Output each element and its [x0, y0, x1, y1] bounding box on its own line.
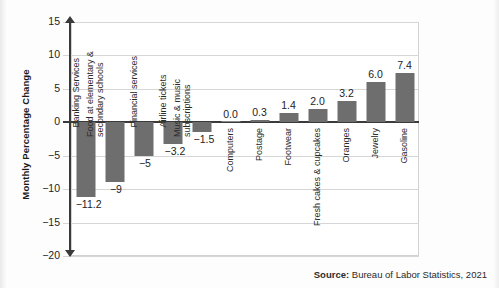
- bar-value-label: −5: [139, 157, 151, 169]
- bar-group[interactable]: 1.4Footwear: [274, 22, 303, 256]
- bar[interactable]: [221, 121, 240, 122]
- category-label-line: Gasoline: [400, 128, 410, 164]
- bar[interactable]: [279, 113, 298, 122]
- bar-value-label: 1.4: [281, 99, 296, 111]
- bar-value-label: −11.2: [76, 198, 102, 210]
- bar-group[interactable]: −1.5Music & musicsubscriptions: [187, 22, 216, 256]
- bar-value-label: 7.4: [397, 59, 412, 71]
- category-label: Airline tickets: [158, 75, 168, 128]
- bar-group[interactable]: −3.2Airline tickets: [158, 22, 187, 256]
- y-tick-label: −5: [20, 149, 60, 161]
- bar-group[interactable]: 0.3Postage: [245, 22, 274, 256]
- bar-value-label: 3.2: [339, 87, 354, 99]
- category-label: Gasoline: [400, 128, 410, 164]
- bar-value-label: 0.3: [252, 106, 267, 118]
- bar[interactable]: [366, 82, 385, 122]
- bar-value-label: −3.2: [165, 145, 186, 157]
- bar[interactable]: [308, 109, 327, 122]
- gridline: [63, 256, 419, 257]
- category-label: Food at elementary &secondary schools: [86, 51, 105, 137]
- bar[interactable]: [395, 73, 414, 122]
- y-tick-label: 0: [20, 115, 60, 127]
- page-edge-right: [494, 0, 499, 288]
- category-label: Jewelry: [371, 128, 381, 159]
- category-label-line: Food at elementary &: [86, 51, 96, 137]
- category-label: Oranges: [342, 128, 352, 163]
- category-label: Computers: [226, 128, 236, 172]
- bar-value-label: −9: [110, 183, 122, 195]
- source-label: Source:: [314, 269, 349, 280]
- bar-group[interactable]: 6.0Jewelry: [361, 22, 390, 256]
- category-label-line: Airline tickets: [158, 75, 168, 128]
- bar-group[interactable]: 2.0Fresh cakes & cupcakes: [303, 22, 332, 256]
- bar-group[interactable]: −5Financial services: [129, 22, 158, 256]
- category-label-line: Banking Services: [71, 58, 81, 128]
- bar[interactable]: [105, 122, 124, 182]
- bar-value-label: 2.0: [310, 95, 325, 107]
- category-label-line: secondary schools: [95, 51, 105, 137]
- category-label: Financial services: [129, 56, 139, 128]
- category-label-line: Music & music: [173, 79, 183, 137]
- category-label-line: Oranges: [342, 128, 352, 163]
- bar-group[interactable]: 7.4Gasoline: [390, 22, 419, 256]
- category-label-line: Fresh cakes & cupcakes: [313, 128, 323, 226]
- y-tick-label: −15: [20, 216, 60, 228]
- bar-value-label: 0.0: [223, 108, 238, 120]
- category-label: Music & musicsubscriptions: [173, 79, 192, 137]
- y-tick-label: 10: [20, 48, 60, 60]
- category-label: Banking Services: [71, 58, 81, 128]
- y-tick-label: −10: [20, 182, 60, 194]
- y-tick-label: 15: [20, 15, 60, 27]
- bar-group[interactable]: 0.0Computers: [216, 22, 245, 256]
- category-label: Postage: [255, 128, 265, 161]
- category-label: Footwear: [284, 128, 294, 166]
- source-note: Source: Bureau of Labor Statistics, 2021: [314, 269, 487, 280]
- category-label-line: Financial services: [129, 56, 139, 128]
- category-label-line: Jewelry: [371, 128, 381, 159]
- bar[interactable]: [250, 120, 269, 122]
- category-label-line: Footwear: [284, 128, 294, 166]
- bar-value-label: −1.5: [194, 133, 215, 145]
- bar[interactable]: [192, 122, 211, 132]
- y-tick-label: −20: [20, 249, 60, 261]
- category-label-line: Postage: [255, 128, 265, 161]
- page-edge-left: [0, 0, 6, 288]
- bar-series: −11.2Banking Services−9Food at elementar…: [71, 22, 419, 256]
- bar-group[interactable]: −9Food at elementary &secondary schools: [100, 22, 129, 256]
- bar[interactable]: [337, 101, 356, 122]
- chart-screenshot: Monthly Percentage Change 151050−5−10−15…: [0, 0, 499, 288]
- y-tick-label: 5: [20, 82, 60, 94]
- bar-group[interactable]: 3.2Oranges: [332, 22, 361, 256]
- category-label-line: Computers: [226, 128, 236, 172]
- category-label-line: subscriptions: [182, 79, 192, 137]
- category-label: Fresh cakes & cupcakes: [313, 128, 323, 226]
- source-text: Bureau of Labor Statistics, 2021: [349, 269, 487, 280]
- bar-value-label: 6.0: [368, 68, 383, 80]
